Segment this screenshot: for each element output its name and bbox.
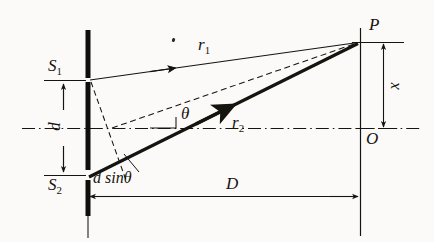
- label-ray-r1: r1: [198, 36, 210, 56]
- figure-canvas: S1 S2 d r1 r2 θ d sinθ D P O x: [0, 0, 434, 242]
- label-angle-theta: θ: [181, 105, 189, 122]
- label-slit-s1: S1: [48, 57, 62, 77]
- ray-r2: [89, 44, 358, 178]
- label-point-O: O: [366, 130, 378, 147]
- label-screen-distance-D: D: [226, 175, 238, 192]
- dimension-D: [88, 197, 358, 239]
- label-slit-separation-d: d: [46, 122, 63, 131]
- ray-r1: [90, 43, 358, 81]
- label-point-P: P: [369, 16, 379, 33]
- angle-theta-mark: [150, 117, 176, 128]
- label-path-difference: d sinθ: [93, 170, 132, 186]
- label-slit-s2: S2: [48, 176, 62, 196]
- double-slit-diagram: [0, 0, 434, 242]
- slit-barrier: [86, 30, 91, 216]
- label-fringe-position-x: x: [386, 82, 402, 89]
- label-ray-r2: r2: [232, 114, 244, 134]
